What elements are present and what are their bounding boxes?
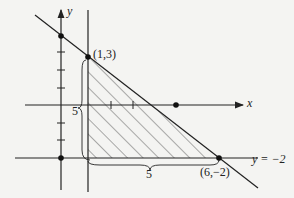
y-axis-label: y (67, 4, 72, 19)
point-y-intercept (58, 33, 64, 39)
point-1-3-label: (1,3) (93, 47, 116, 62)
diagram: y x (1,3) (6,−2) y = −2 5 5 (0, 0, 294, 198)
point-0-minus-2 (58, 155, 64, 161)
line-y-label: y = −2 (252, 152, 286, 167)
point-6-minus-2 (216, 155, 222, 161)
x-axis-label: x (247, 96, 252, 111)
point-x-intercept (173, 102, 179, 108)
diagonal-line (35, 15, 258, 188)
width-label: 5 (146, 167, 152, 182)
point-1-3 (85, 54, 91, 60)
height-label: 5 (72, 104, 78, 119)
point-6-minus-2-label: (6,−2) (200, 165, 230, 180)
